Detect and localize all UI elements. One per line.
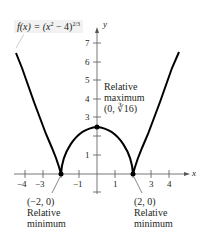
x-tick-label: −3 bbox=[35, 180, 45, 189]
point-min-right bbox=[131, 172, 136, 177]
function-curve bbox=[16, 52, 179, 174]
x-tick-label: 3 bbox=[149, 180, 154, 189]
x-tick-label: 4 bbox=[167, 180, 172, 189]
x-tick-label: −4 bbox=[17, 180, 27, 189]
annotation-max: Relative maximum (0, ∛16) bbox=[104, 81, 145, 114]
y-tick-label: 7 bbox=[85, 39, 90, 48]
y-axis-arrow-icon bbox=[95, 27, 99, 33]
x-axis-label: x bbox=[192, 168, 196, 179]
point-max bbox=[95, 125, 100, 130]
function-title: f(x) = (x2 − 4)2/3 bbox=[14, 20, 83, 33]
x-axis-arrow-icon bbox=[184, 172, 190, 176]
y-tick-label: 1 bbox=[85, 151, 90, 160]
y-axis-label: y bbox=[103, 19, 107, 30]
leader-min-right bbox=[134, 177, 142, 193]
leader-title bbox=[16, 34, 24, 48]
annotation-min-right: (2, 0) Relative minimum bbox=[134, 196, 173, 229]
leader-min-left bbox=[52, 177, 60, 193]
y-tick-label: 4 bbox=[85, 95, 90, 104]
y-tick-label: 5 bbox=[85, 76, 90, 85]
y-tick-label: 3 bbox=[85, 113, 90, 122]
x-tick-label: 1 bbox=[113, 180, 118, 189]
point-min-left bbox=[59, 172, 64, 177]
annotation-min-left: (−2, 0) Relative minimum bbox=[27, 196, 66, 229]
x-tick-label: −1 bbox=[73, 180, 83, 189]
y-tick-label: 6 bbox=[85, 58, 90, 67]
